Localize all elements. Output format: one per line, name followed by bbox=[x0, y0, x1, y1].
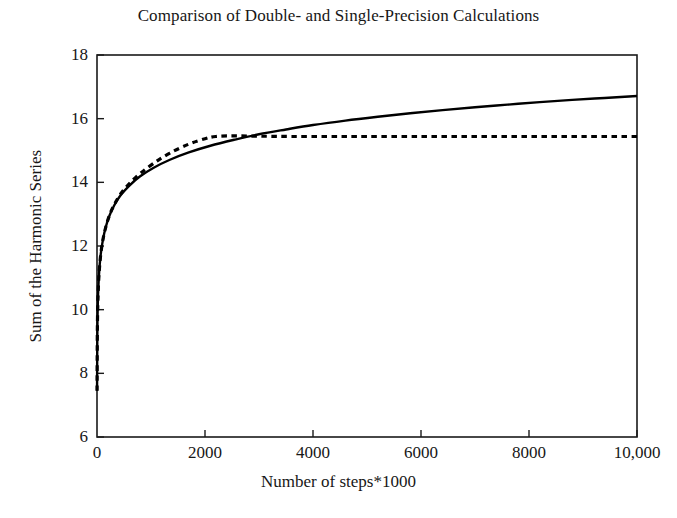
y-tick-label: 10 bbox=[44, 300, 88, 320]
y-tick-label: 18 bbox=[44, 45, 88, 65]
plot-area bbox=[0, 0, 677, 518]
x-axis-title: Number of steps*1000 bbox=[0, 472, 677, 492]
y-axis-title: Sum of the Harmonic Series bbox=[26, 150, 46, 343]
series-single-precision bbox=[97, 136, 637, 391]
x-tick-label: 2000 bbox=[188, 443, 222, 463]
plot-frame bbox=[97, 55, 637, 437]
x-tick-label: 6000 bbox=[404, 443, 438, 463]
y-tick-label: 8 bbox=[44, 363, 88, 383]
series-double-precision bbox=[97, 96, 637, 391]
y-tick-label: 16 bbox=[44, 109, 88, 129]
y-tick-label: 12 bbox=[44, 236, 88, 256]
y-tick-label: 14 bbox=[44, 172, 88, 192]
x-axis-ticks bbox=[205, 430, 637, 437]
y-tick-label: 6 bbox=[44, 427, 88, 447]
figure-canvas: Comparison of Double- and Single-Precisi… bbox=[0, 0, 677, 518]
x-tick-label: 0 bbox=[93, 443, 102, 463]
x-tick-label: 10,000 bbox=[614, 443, 661, 463]
x-tick-label: 4000 bbox=[296, 443, 330, 463]
x-tick-label: 8000 bbox=[512, 443, 546, 463]
data-series-layer bbox=[97, 96, 637, 391]
